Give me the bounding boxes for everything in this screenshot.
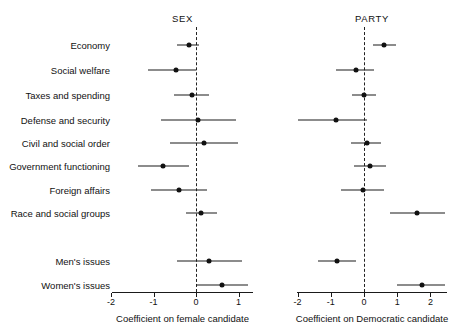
estimate-point — [361, 188, 366, 193]
x-axis-line — [297, 292, 447, 293]
x-axis-title: Coefficient on Democratic candidate — [296, 313, 448, 324]
estimate-point — [381, 43, 386, 48]
x-axis-tick-label: -2 — [294, 297, 302, 307]
x-axis-tick-label: -1 — [327, 297, 335, 307]
x-axis-tick-label: 0 — [361, 297, 366, 307]
estimate-point — [415, 211, 420, 216]
estimate-point — [420, 283, 425, 288]
confidence-interval — [298, 120, 367, 121]
x-axis-tick-label: 2 — [428, 297, 433, 307]
zero-reference-line — [364, 27, 365, 292]
estimate-point — [362, 93, 367, 98]
x-axis-tick-label: 1 — [395, 297, 400, 307]
party-panel: PARTY -2-1012Coefficient on Democratic c… — [0, 0, 453, 335]
estimate-point — [335, 259, 340, 264]
estimate-point — [353, 68, 358, 73]
coefficient-plot-figure: EconomySocial welfareTaxes and spendingD… — [0, 0, 453, 335]
estimate-point — [365, 141, 370, 146]
party-panel-title: PARTY — [312, 13, 432, 24]
estimate-point — [367, 164, 372, 169]
estimate-point — [333, 118, 338, 123]
